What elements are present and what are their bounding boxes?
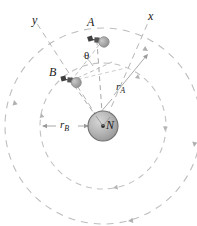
axis-x-label: x	[148, 10, 153, 22]
craft-b-label: B	[49, 66, 56, 78]
orbit-direction-arrowhead	[163, 126, 168, 131]
radius-a-subscript: A	[120, 86, 125, 95]
angle-theta-label: θ	[84, 50, 89, 61]
spacecraft-a-icon	[87, 31, 110, 52]
axis-x-line	[103, 18, 150, 126]
axis-y-label: y	[32, 14, 37, 26]
central-body-label: N	[106, 119, 114, 131]
orbit-direction-arrowhead	[142, 46, 149, 53]
orbit-direction-arrowhead	[135, 74, 142, 81]
orbit-direction-arrowhead	[11, 99, 17, 105]
radius-b-subscript: B	[64, 124, 69, 133]
radius-arrowhead	[42, 124, 47, 129]
orbit-direction-arrowhead	[128, 218, 134, 224]
orbital-diagram-canvas	[0, 0, 197, 226]
craft-a-label: A	[87, 16, 94, 28]
radius-b-label: rB	[60, 119, 69, 133]
orbit-direction-arrowhead	[191, 142, 197, 148]
axis-y-line	[36, 22, 103, 126]
radius-a-label: rA	[116, 81, 125, 95]
